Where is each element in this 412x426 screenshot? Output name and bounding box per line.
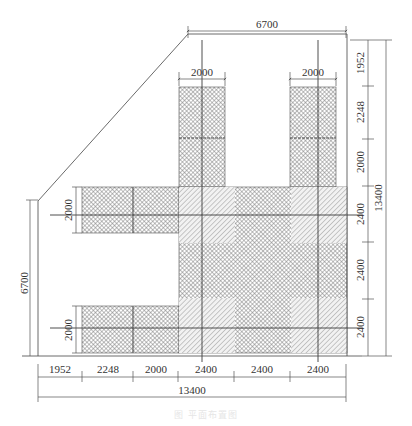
upper-arm-width: 2000: [62, 199, 74, 222]
right-dimension-chain: [350, 40, 392, 356]
junction-bottom-left: [179, 298, 235, 353]
bottom-overall-dim: 13400: [178, 384, 206, 396]
right-dim-2: 2248: [354, 101, 366, 124]
right-dim-4: 2400: [354, 203, 366, 226]
bottom-dim-2: 2248: [97, 363, 120, 375]
left-tower-width: 2000: [191, 66, 214, 78]
left-overall-dim: 6700: [18, 272, 30, 295]
bottom-dim-5: 2400: [251, 363, 274, 375]
right-tower: [290, 87, 336, 187]
right-dim-3: 2000: [354, 151, 366, 174]
right-dim-1: 1952: [354, 52, 366, 74]
figure-caption: 图 平面布置图: [0, 408, 412, 421]
lower-left-arm: [82, 306, 179, 353]
right-overall-dim: 13400: [372, 184, 384, 212]
right-dim-6: 2400: [354, 316, 366, 339]
upper-left-arm: [82, 187, 179, 233]
structural-plan-drawing: 6700 2000 2000 1952 2248 2000 2400 2400 …: [0, 0, 412, 426]
right-dim-5: 2400: [354, 259, 366, 282]
lower-arm-width: 2000: [62, 319, 74, 342]
right-tower-width: 2000: [302, 66, 325, 78]
junction-bottom-right: [291, 298, 347, 353]
bottom-dim-1: 1952: [49, 363, 71, 375]
bottom-dim-6: 2400: [307, 363, 330, 375]
bottom-dim-4: 2400: [195, 363, 218, 375]
bottom-dimension-chain: [38, 364, 346, 402]
bottom-dim-3: 2000: [145, 363, 168, 375]
top-overall-dim: 6700: [256, 18, 279, 30]
